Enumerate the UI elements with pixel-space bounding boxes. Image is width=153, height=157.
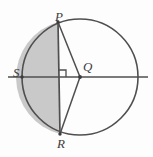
point-label-S: S [13, 66, 20, 79]
radius-QP [58, 22, 80, 77]
point-dot-Q [78, 75, 82, 79]
point-label-P: P [55, 10, 63, 23]
point-label-Q: Q [83, 60, 92, 73]
geometry-figure: P S Q R [0, 0, 153, 157]
right-angle-marker [59, 70, 66, 77]
point-label-R: R [57, 137, 65, 150]
point-dot-S [20, 75, 23, 78]
radius-QR [60, 77, 80, 134]
geometry-canvas [0, 0, 153, 157]
